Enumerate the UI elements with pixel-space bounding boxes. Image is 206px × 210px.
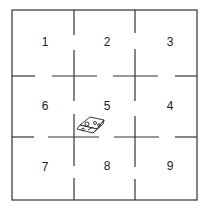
cell-label-5: 5 bbox=[104, 99, 111, 113]
cell-label-2: 2 bbox=[104, 35, 111, 49]
cell-label-8: 8 bbox=[104, 159, 111, 173]
grid-diagram: 1 2 3 6 5 4 7 8 9 bbox=[0, 0, 206, 210]
robot-icon bbox=[77, 117, 104, 133]
cell-label-9: 9 bbox=[167, 159, 174, 173]
cell-labels: 1 2 3 6 5 4 7 8 9 bbox=[42, 35, 174, 174]
cell-label-1: 1 bbox=[42, 35, 49, 49]
cell-label-3: 3 bbox=[167, 35, 174, 49]
cell-label-6: 6 bbox=[42, 99, 49, 113]
cell-label-4: 4 bbox=[167, 99, 174, 113]
cell-label-7: 7 bbox=[42, 160, 49, 174]
